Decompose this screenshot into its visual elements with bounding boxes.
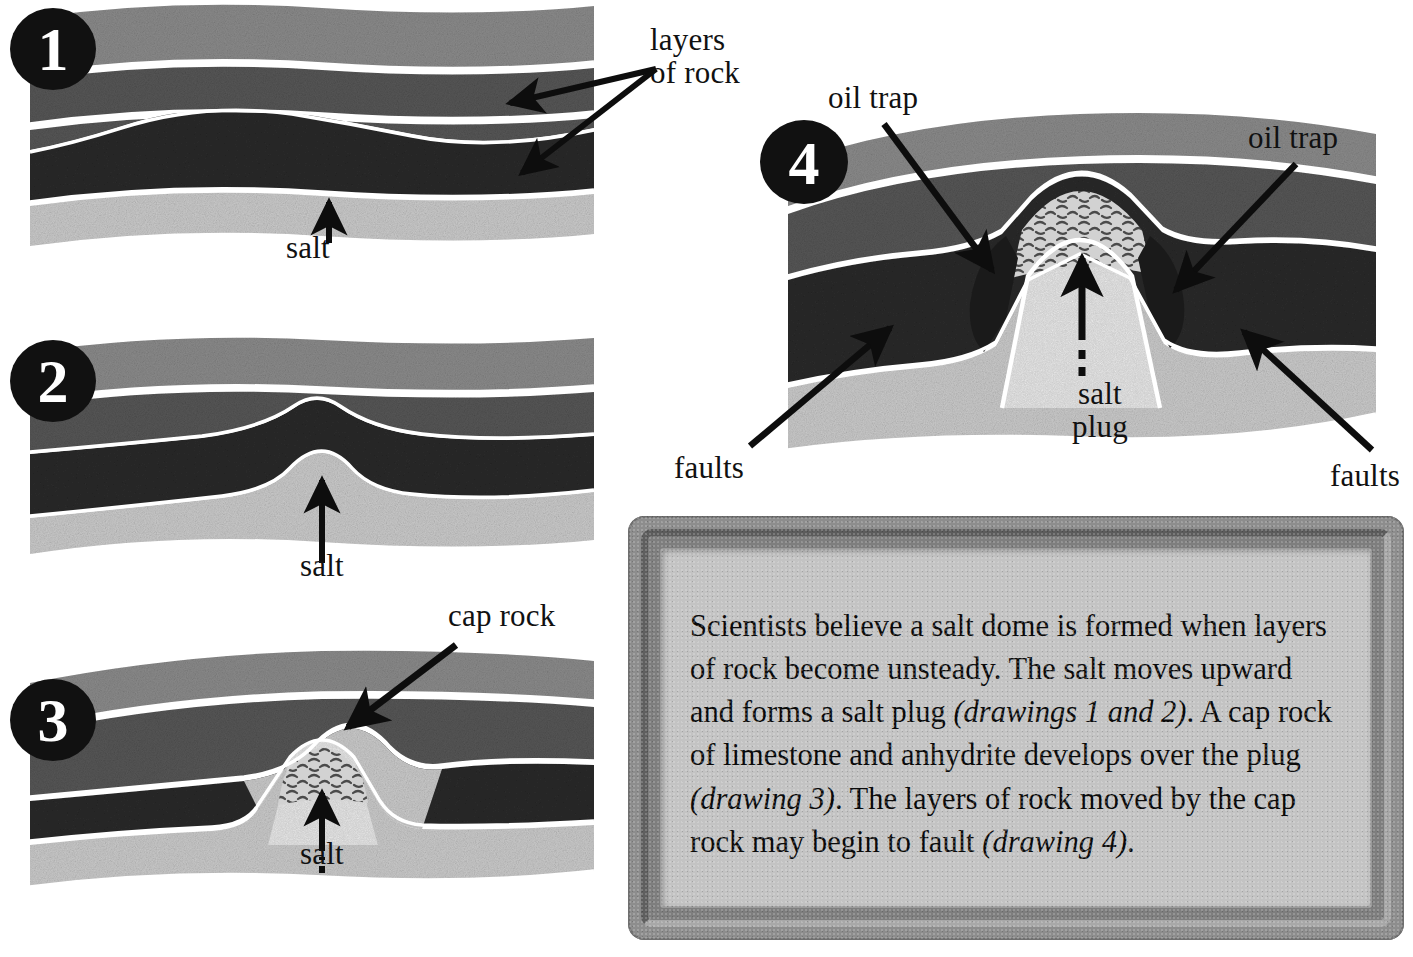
cap-rock-leader-arrow [320, 635, 470, 755]
stage-2-number: 2 [38, 347, 69, 415]
salt-plug-label: salt plug [1040, 378, 1160, 443]
caption-inner-panel: Scientists believe a salt dome is formed… [660, 548, 1372, 908]
stage-1-number-badge: 1 [8, 4, 98, 94]
stage-2-panel: 2 [22, 330, 602, 570]
stage-2-cross-section [22, 330, 602, 570]
faults-left-label: faults [674, 452, 744, 485]
oil-trap-left-label: oil trap [828, 82, 918, 115]
stage-2-number-badge: 2 [8, 336, 98, 426]
oil-trap-right-leader-arrow [1150, 158, 1310, 310]
stage-3-number-badge: 3 [8, 675, 98, 765]
stage-1-salt-label: salt [248, 232, 368, 265]
faults-left-leader-arrow [736, 318, 916, 458]
oil-trap-left-leader-arrow [870, 118, 1030, 288]
oil-trap-right-label: oil trap [1248, 122, 1338, 155]
stage-3-number: 3 [38, 686, 69, 754]
stage-3-salt-label: salt [262, 838, 382, 871]
faults-right-leader-arrow [1230, 318, 1390, 463]
stage-2-salt-label: salt [262, 550, 382, 583]
stage-4-number: 4 [789, 129, 820, 197]
layers-of-rock-leader-arrows [480, 55, 670, 195]
faults-right-label: faults [1220, 460, 1400, 493]
caption-frame: Scientists believe a salt dome is formed… [628, 516, 1404, 940]
cap-rock-label: cap rock [448, 600, 555, 633]
caption-bevel: Scientists believe a salt dome is formed… [641, 529, 1391, 927]
stage-4-number-badge: 4 [758, 116, 850, 208]
stage-1-number: 1 [38, 15, 69, 83]
caption-text: Scientists believe a salt dome is formed… [690, 605, 1342, 865]
